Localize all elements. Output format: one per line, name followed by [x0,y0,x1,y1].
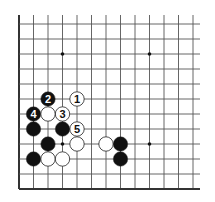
star-point [61,142,65,146]
stone-disc [70,137,84,151]
stone-disc [55,152,69,166]
star-point [61,52,65,56]
stone-disc [26,122,40,136]
black-stone [55,122,69,136]
stone-disc [41,107,55,121]
move-number: 2 [45,93,51,105]
black-stone [41,137,55,151]
move-number: 3 [59,108,65,120]
black-stone-2: 2 [41,92,55,106]
stone-disc [26,152,40,166]
black-stone [26,152,40,166]
stone-disc [113,152,127,166]
stone-disc [41,152,55,166]
star-point [148,142,152,146]
white-stone [55,152,69,166]
move-number: 4 [30,108,37,120]
white-stone [70,137,84,151]
black-stone [113,137,127,151]
black-stone-4: 4 [26,107,40,121]
go-board: 12345 [0,0,215,202]
white-stone [41,152,55,166]
star-point [148,52,152,56]
black-stone [26,122,40,136]
white-stone [41,107,55,121]
move-number: 5 [74,123,80,135]
move-number: 1 [74,93,80,105]
stone-disc [41,137,55,151]
stone-disc [99,137,113,151]
white-stone-1: 1 [70,92,84,106]
stone-disc [113,137,127,151]
white-stone [99,137,113,151]
white-stone-5: 5 [70,122,84,136]
white-stone-3: 3 [55,107,69,121]
stone-disc [55,122,69,136]
black-stone [113,152,127,166]
